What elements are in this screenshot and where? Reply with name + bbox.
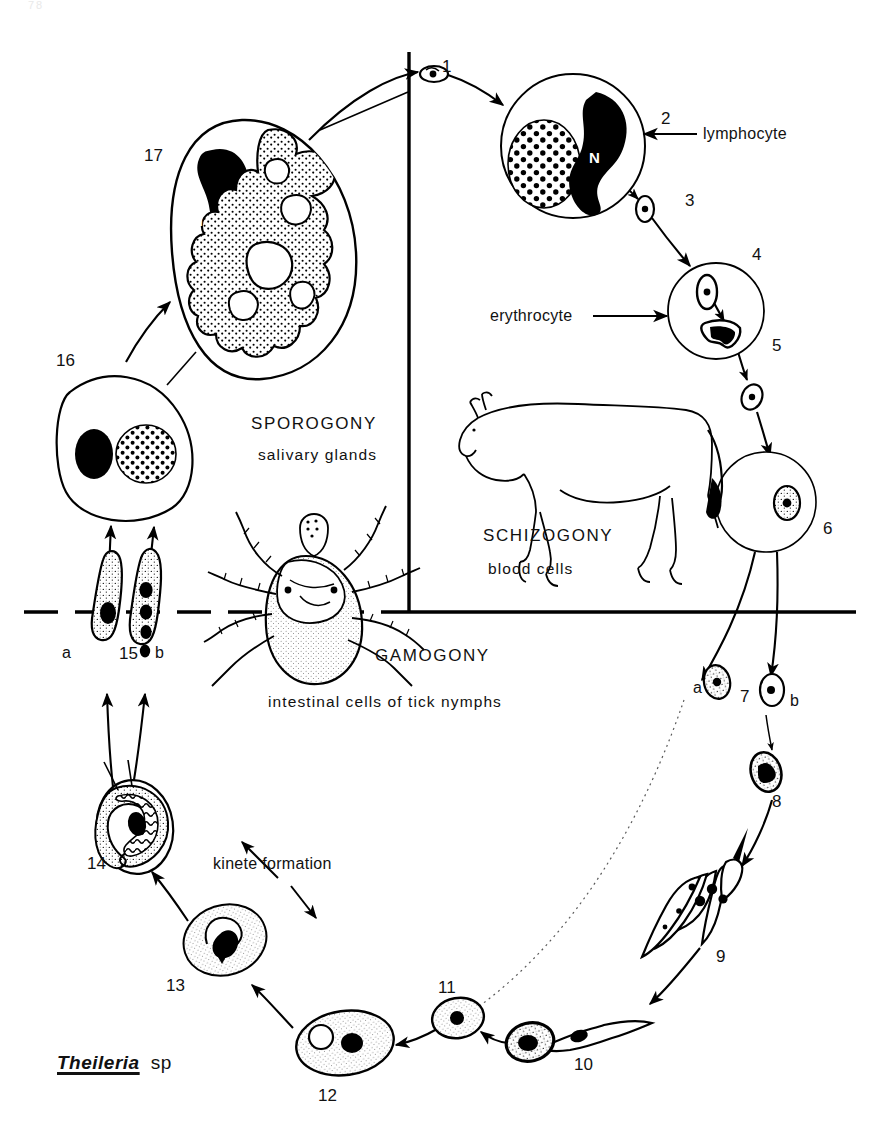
stage-2-lymphocyte <box>501 74 645 218</box>
stage-15-sublabel-a: a <box>62 645 71 661</box>
section-subtitle-gamogony: intestinal cells of tick nymphs <box>268 694 502 710</box>
nucleus-label-stage-2: N <box>589 150 600 165</box>
species-caption: Theileriasp <box>57 1052 172 1074</box>
stage-16-sporoblast <box>57 352 196 521</box>
annotation-lymphocyte: lymphocyte <box>703 126 787 142</box>
section-title-gamogony: GAMOGONY <box>375 647 490 664</box>
section-title-schizogony: SCHIZOGONY <box>483 527 613 544</box>
diagram-canvas <box>0 0 878 1135</box>
stage-number-2: 2 <box>661 110 670 127</box>
stage-number-11: 11 <box>438 979 456 996</box>
stage-number-1: 1 <box>442 58 451 75</box>
stage-5-merozoite <box>738 381 766 413</box>
stage-6-infected-erythrocyte <box>716 452 816 552</box>
stage-number-13: 13 <box>166 977 185 994</box>
stage-13-kinete-early <box>174 894 276 987</box>
stage-number-9: 9 <box>716 948 725 965</box>
stage-17-sporoblast <box>171 92 408 379</box>
stage-number-5: 5 <box>772 337 781 354</box>
stage-7-sublabel-a: a <box>693 680 702 696</box>
stage-number-14: 14 <box>87 855 106 872</box>
stage-3-merozoite <box>636 196 654 222</box>
species-epithet: sp <box>151 1052 172 1073</box>
stage-number-3: 3 <box>685 192 694 209</box>
theileria-life-cycle-figure: 78 <box>0 0 878 1135</box>
genus-name: Theileria <box>57 1052 140 1073</box>
section-subtitle-sporogony: salivary glands <box>258 447 377 463</box>
stage-7b-gamont <box>760 674 784 706</box>
stage-8-gamont <box>746 749 786 796</box>
stage-15-sublabel-b: b <box>155 645 164 661</box>
stage-9-ray-body <box>642 828 748 957</box>
stage-number-16: 16 <box>56 352 75 369</box>
stage-15a-kinete <box>92 551 122 640</box>
stage-4-5-erythrocyte <box>668 263 764 359</box>
stage-number-8: 8 <box>772 793 781 810</box>
kinete-formation-arrows <box>242 842 316 918</box>
stage-number-10: 10 <box>574 1056 593 1073</box>
stage-10-microgamete <box>540 1021 652 1051</box>
stage-12-zygote-in-cell <box>292 1004 398 1081</box>
stage-number-15: 15 <box>119 645 138 662</box>
nucleus-label-stage-17: N <box>192 213 203 228</box>
stage-7a-gamont <box>701 663 734 702</box>
stage-number-6: 6 <box>823 520 832 537</box>
annotation-erythrocyte: erythrocyte <box>490 308 572 324</box>
annotation-kinete-formation: kinete formation <box>213 856 332 872</box>
section-title-sporogony: SPOROGONY <box>251 415 377 432</box>
stage-number-4: 4 <box>752 246 761 263</box>
stage-7-sublabel-b: b <box>790 693 799 709</box>
stage-11-zygote <box>429 994 487 1042</box>
section-subtitle-schizogony: blood cells <box>488 561 573 577</box>
stage-number-12: 12 <box>318 1087 337 1104</box>
stage-15b-kinete <box>130 549 161 657</box>
stage-number-17: 17 <box>144 147 163 164</box>
cow-drawing <box>459 392 722 586</box>
stage-number-7: 7 <box>740 688 749 705</box>
zygote <box>502 1018 558 1066</box>
